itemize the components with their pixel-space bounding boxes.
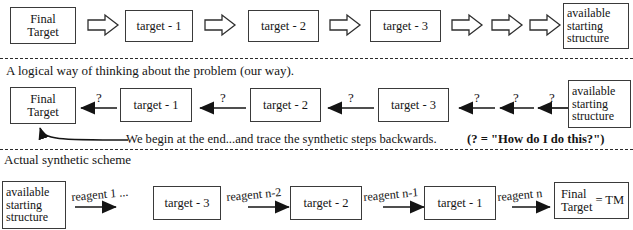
question-mark-5: ? — [513, 90, 519, 106]
box-line: Final — [30, 12, 56, 26]
box-line: structure — [567, 31, 609, 45]
question-mark-6: ? — [549, 90, 555, 106]
callout-curve — [40, 128, 128, 140]
row3-box-available-starting-structure[interactable]: available starting structure — [2, 181, 66, 229]
row2-box-available-starting-structure[interactable]: available starting structure — [568, 80, 631, 128]
row2-box-target-1[interactable]: target - 1 — [120, 88, 192, 122]
box-line: target - 3 — [383, 20, 428, 33]
row1-box-target-3[interactable]: target - 3 — [370, 10, 441, 42]
row3-box-target-3[interactable]: target - 3 — [153, 186, 221, 220]
tm-equals-label: = TM — [595, 194, 624, 207]
hollow-arrow-icon — [205, 15, 235, 35]
question-mark-2: ? — [220, 90, 226, 106]
box-line: target - 1 — [438, 197, 483, 210]
row1-box-target-2[interactable]: target - 2 — [248, 10, 319, 42]
question-mark-4: ? — [474, 90, 480, 106]
row2-box-target-3[interactable]: target - 3 — [378, 88, 449, 122]
row1-box-target-1[interactable]: target - 1 — [125, 10, 193, 42]
box-line: structure — [6, 210, 48, 224]
box-line: target - 1 — [137, 20, 182, 33]
row2-box-target-2[interactable]: target - 2 — [250, 88, 321, 122]
row3-box-target-1[interactable]: target - 1 — [424, 186, 496, 220]
hollow-arrow-icon — [330, 15, 360, 35]
box-line: Target — [561, 200, 593, 214]
question-legend: (? = "How do I do this?") — [467, 132, 604, 147]
divider-top — [0, 58, 633, 59]
hollow-arrow-icon — [530, 15, 560, 35]
hollow-arrow-icon — [88, 15, 118, 35]
retrosynthesis-figure: Final Target target - 1 target - 2 targe… — [0, 0, 633, 230]
row2-box-final-target[interactable]: Final Target — [10, 87, 76, 124]
divider-bottom — [0, 149, 633, 150]
row3-box-final-target-tm[interactable]: Final Target = TM — [554, 182, 629, 219]
box-line: structure — [572, 109, 614, 123]
actual-row-caption: Actual synthetic scheme — [4, 152, 131, 168]
backwards-annotation: We begin at the end...and trace the synt… — [126, 132, 437, 147]
row3-box-target-2[interactable]: target - 2 — [290, 186, 362, 220]
box-line: target - 3 — [165, 197, 210, 210]
box-line: target - 2 — [304, 197, 349, 210]
row1-box-final-target[interactable]: Final Target — [10, 7, 76, 44]
box-line: Target — [27, 25, 59, 39]
question-mark-3: ? — [348, 90, 354, 106]
hollow-arrow-icon — [492, 15, 522, 35]
box-line: Final — [30, 92, 56, 106]
box-line: target - 3 — [391, 99, 436, 112]
box-line: target - 1 — [134, 99, 179, 112]
box-line: target - 2 — [263, 99, 308, 112]
box-line: Target — [27, 105, 59, 119]
box-line: Final — [561, 187, 587, 201]
hollow-arrow-icon — [452, 15, 482, 35]
question-mark-1: ? — [96, 90, 102, 106]
row1-box-available-starting-structure[interactable]: available starting structure — [563, 3, 629, 49]
box-line: target - 2 — [261, 20, 306, 33]
logical-row-caption: A logical way of thinking about the prob… — [6, 63, 294, 79]
